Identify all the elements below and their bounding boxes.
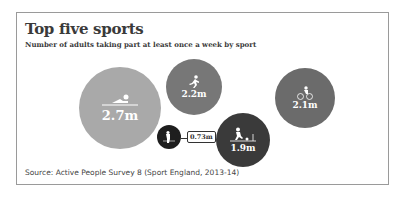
bubble-value: 2.2m	[181, 89, 206, 99]
bubble-running: 2.2m	[166, 59, 222, 115]
bubble-cycling: 2.1m	[275, 68, 335, 128]
golfer-icon	[162, 130, 176, 144]
bubble-value: 2.1m	[292, 100, 317, 110]
runner-icon	[187, 75, 201, 89]
bubble-value: 2.7m	[102, 108, 138, 123]
chart-title: Top five sports	[25, 20, 144, 38]
chart-subtitle: Number of adults taking part at least on…	[25, 40, 256, 49]
golf-value-label: 0.73m	[187, 131, 216, 143]
swimmer-icon	[100, 94, 140, 108]
bubble-golf	[157, 125, 181, 149]
footballer-icon	[228, 127, 258, 143]
bubble-swimming: 2.7m	[79, 67, 161, 149]
bubble-value: 1.9m	[230, 143, 255, 153]
bubble-football: 1.9m	[216, 113, 270, 167]
chart-source: Source: Active People Survey 8 (Sport En…	[25, 168, 239, 177]
cyclist-icon	[296, 86, 314, 100]
